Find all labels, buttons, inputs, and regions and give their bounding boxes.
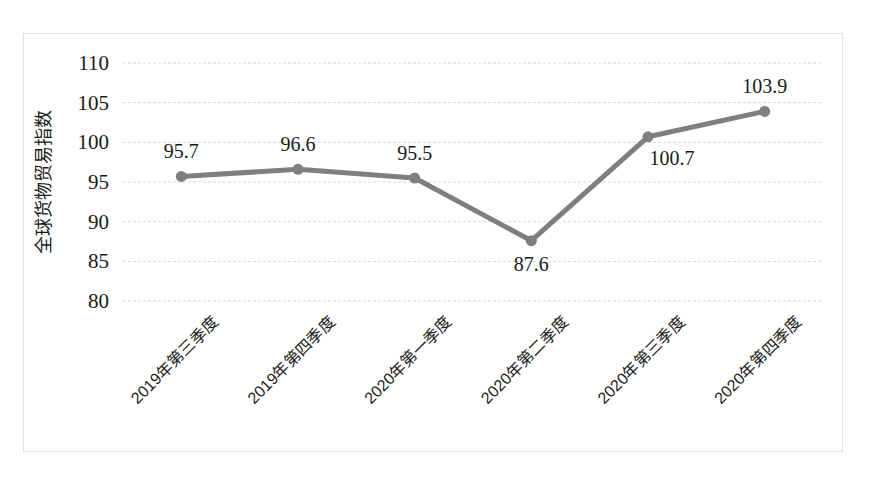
- y-tick-label: 80: [88, 289, 109, 313]
- y-gridlines: [123, 63, 823, 301]
- data-point-marker: [176, 171, 187, 182]
- y-axis-title-text: 全球货物贸易指数: [34, 110, 54, 254]
- x-axis-label: 2020年第三季度: [594, 313, 688, 407]
- data-value-label: 95.7: [164, 140, 199, 162]
- y-tick-label: 110: [78, 51, 109, 75]
- data-markers: [176, 106, 770, 246]
- chart-container: 80859095100105110全球货物贸易指数95.796.695.587.…: [23, 33, 843, 452]
- x-axis-label: 2019年第三季度: [128, 313, 222, 407]
- data-point-marker: [293, 164, 304, 175]
- x-axis-label: 2020年第四季度: [711, 313, 805, 407]
- y-tick-label: 100: [78, 130, 110, 154]
- line-chart: 80859095100105110全球货物贸易指数95.796.695.587.…: [24, 34, 842, 451]
- y-tick-label: 95: [88, 170, 109, 194]
- data-value-label: 103.9: [742, 75, 787, 97]
- y-tick-label: 90: [88, 210, 109, 234]
- x-axis-labels: 2019年第三季度2019年第四季度2020年第一季度2020年第二季度2020…: [128, 313, 805, 407]
- y-axis-ticks: 80859095100105110: [78, 51, 110, 313]
- y-axis-title: 全球货物贸易指数: [34, 110, 54, 254]
- data-value-label: 95.5: [397, 142, 432, 164]
- data-value-label: 96.6: [281, 133, 316, 155]
- data-value-labels: 95.796.695.587.6100.7103.9: [164, 75, 787, 274]
- data-point-marker: [759, 106, 770, 117]
- y-tick-label: 105: [78, 91, 110, 115]
- data-value-label: 87.6: [514, 253, 549, 275]
- data-point-marker: [409, 173, 420, 184]
- data-point-marker: [526, 235, 537, 246]
- x-axis-label: 2020年第一季度: [361, 313, 455, 407]
- data-value-label: 100.7: [650, 147, 695, 169]
- y-tick-label: 85: [88, 249, 109, 273]
- x-axis-label: 2020年第二季度: [478, 313, 572, 407]
- data-point-marker: [643, 131, 654, 142]
- x-axis-label: 2019年第四季度: [244, 313, 338, 407]
